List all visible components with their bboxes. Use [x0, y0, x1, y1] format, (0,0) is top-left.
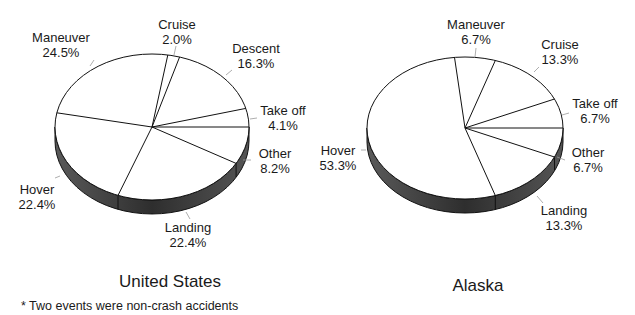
- slice-percent: 6.7%: [567, 111, 623, 126]
- slice-name: Hover: [315, 143, 361, 158]
- us-label-descent: Descent 16.3%: [226, 41, 286, 71]
- alaska-chart-title: Alaska: [446, 276, 510, 296]
- slice-name: Cruise: [535, 37, 585, 52]
- slice-percent: 4.1%: [255, 118, 311, 133]
- us-label-takeoff: Take off 4.1%: [255, 103, 311, 133]
- us-label-landing: Landing 22.4%: [159, 220, 217, 250]
- slice-percent: 8.2%: [253, 161, 297, 176]
- slice-name: Maneuver: [28, 30, 94, 45]
- us-label-hover: Hover 22.4%: [14, 182, 60, 212]
- slice-name: Other: [253, 146, 297, 161]
- slice-name: Landing: [159, 220, 217, 235]
- slice-name: Other: [566, 145, 610, 160]
- alaska-pie: [361, 48, 569, 213]
- alaska-label-landing: Landing 13.3%: [535, 203, 593, 233]
- slice-percent: 2.0%: [152, 32, 202, 47]
- slice-percent: 13.3%: [535, 218, 593, 233]
- alaska-label-maneuver: Maneuver 6.7%: [443, 17, 509, 47]
- alaska-label-takeoff: Take off 6.7%: [567, 96, 623, 126]
- slice-percent: 22.4%: [159, 235, 217, 250]
- slice-percent: 16.3%: [226, 56, 286, 71]
- us-label-maneuver: Maneuver 24.5%: [28, 30, 94, 60]
- slice-percent: 6.7%: [443, 32, 509, 47]
- slice-name: Take off: [255, 103, 311, 118]
- slice-name: Maneuver: [443, 17, 509, 32]
- slice-name: Cruise: [152, 17, 202, 32]
- slice-percent: 22.4%: [14, 197, 60, 212]
- alaska-label-cruise: Cruise 13.3%: [535, 37, 585, 67]
- slice-name: Descent: [226, 41, 286, 56]
- slice-percent: 24.5%: [28, 45, 94, 60]
- us-pie: [55, 46, 257, 219]
- us-label-cruise: Cruise 2.0%: [152, 17, 202, 47]
- us-chart-title: United States: [115, 272, 225, 292]
- slice-name: Take off: [567, 96, 623, 111]
- alaska-label-hover: Hover 53.3%: [315, 143, 361, 173]
- slice-percent: 13.3%: [535, 52, 585, 67]
- footnote: * Two events were non-crash accidents: [21, 299, 238, 314]
- slice-name: Landing: [535, 203, 593, 218]
- slice-percent: 6.7%: [566, 160, 610, 175]
- slice-name: Hover: [14, 182, 60, 197]
- us-label-other: Other 8.2%: [253, 146, 297, 176]
- alaska-label-other: Other 6.7%: [566, 145, 610, 175]
- slice-percent: 53.3%: [315, 158, 361, 173]
